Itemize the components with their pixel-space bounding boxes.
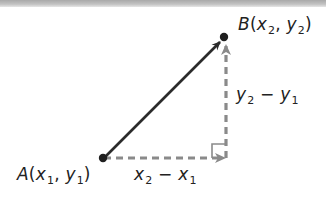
b-letter: B — [238, 14, 250, 34]
point-a — [99, 154, 107, 162]
minus-sign: − — [152, 164, 178, 184]
sub-1: 1 — [291, 94, 298, 107]
y-var: y — [236, 84, 246, 104]
x-var: x — [36, 164, 46, 184]
horizontal-diff-label: x2 − x1 — [134, 164, 197, 187]
y-var: y — [280, 84, 290, 104]
vector-ab — [104, 42, 220, 158]
point-a-label: A(x1, y1) — [17, 164, 91, 187]
comma: , — [275, 14, 286, 34]
minus-sign: − — [254, 84, 280, 104]
sub-1: 1 — [77, 174, 84, 187]
diagram-frame: B(x2, y2) y2 − y1 A(x1, y1) x2 − x1 — [0, 0, 326, 197]
point-b-label: B(x2, y2) — [238, 14, 312, 37]
x-var: x — [178, 164, 188, 184]
paren-close: ) — [84, 164, 91, 184]
comma: , — [54, 164, 65, 184]
paren-open: ( — [29, 164, 36, 184]
point-b — [220, 33, 228, 41]
a-letter: A — [17, 164, 29, 184]
paren-close: ) — [305, 14, 312, 34]
right-angle-marker — [212, 144, 226, 158]
x-var: x — [134, 164, 144, 184]
sub-2: 2 — [298, 24, 305, 37]
x-var: x — [257, 14, 267, 34]
paren-open: ( — [250, 14, 257, 34]
y-var: y — [286, 14, 296, 34]
sub-1: 1 — [189, 174, 196, 187]
y-var: y — [65, 164, 75, 184]
vertical-diff-label: y2 − y1 — [236, 84, 299, 107]
